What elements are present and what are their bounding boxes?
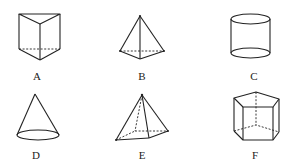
shape-b-label: B [138,70,145,82]
shape-b-triangular-pyramid: B [119,15,165,82]
shape-a-triangular-prism: A [19,14,60,82]
shape-e-label: E [139,149,146,161]
shape-f-label: F [252,149,258,161]
shape-d-cone: D [17,94,59,161]
shape-c-cylinder: C [231,14,270,82]
shape-d-label: D [32,149,40,161]
shape-c-label: C [250,70,257,82]
shape-a-label: A [33,70,41,82]
shape-f-pentagonal-prism: F [234,92,279,161]
shape-e-quadrangular-pyramid: E [115,94,169,161]
solids-diagram: A B C D E [0,0,291,165]
